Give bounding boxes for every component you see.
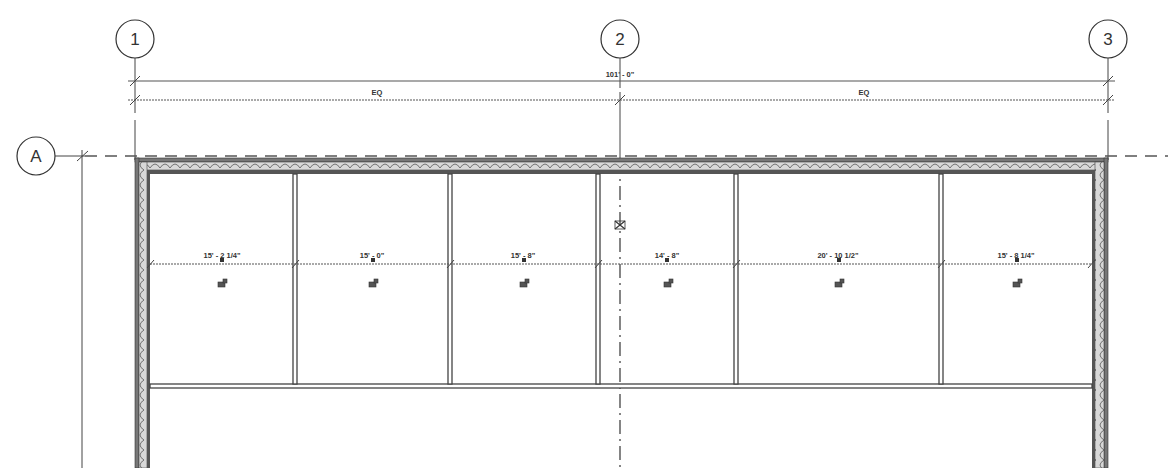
- dimension-grip-icon[interactable]: [837, 258, 841, 262]
- grid-line-3[interactable]: 3: [1089, 20, 1127, 160]
- eq-dimension-text-1: EQ: [372, 88, 383, 97]
- grid-bubble-2[interactable]: 2: [601, 20, 639, 58]
- room-3[interactable]: 15' - 8": [511, 251, 536, 287]
- grid-bubble-3[interactable]: 3: [1089, 20, 1127, 58]
- grid-line-1[interactable]: 1: [116, 20, 154, 160]
- room-partitions[interactable]: [293, 174, 943, 384]
- room-tag-icon[interactable]: [369, 279, 378, 287]
- room-4[interactable]: 14' - 8": [655, 251, 680, 287]
- dimension-grip-icon[interactable]: [665, 258, 669, 262]
- partition-3: [596, 174, 600, 384]
- grid-bubble-1[interactable]: 1: [116, 20, 154, 58]
- partition-4: [734, 174, 738, 384]
- overall-dimension[interactable]: 101' - 0": [128, 70, 1115, 86]
- grid-label-2: 2: [615, 30, 624, 49]
- partition-1: [293, 174, 297, 384]
- room-2[interactable]: 15' - 0": [360, 251, 385, 287]
- room-tag-icon[interactable]: [835, 279, 844, 287]
- grid-line-a[interactable]: A: [17, 137, 1168, 468]
- room-dimension-string[interactable]: [147, 260, 1095, 268]
- overall-dimension-text: 101' - 0": [606, 70, 635, 79]
- eq-dimension-text-2: EQ: [859, 88, 870, 97]
- grid-label-1: 1: [130, 30, 139, 49]
- dimension-grip-icon[interactable]: [1015, 258, 1019, 262]
- room-6[interactable]: 15' - 8 1/4": [997, 251, 1034, 287]
- partition-5: [939, 174, 943, 384]
- grid-label-3: 3: [1103, 30, 1112, 49]
- room-1[interactable]: 15' - 2 1/4": [203, 251, 240, 287]
- eq-dimension-string[interactable]: EQ EQ: [128, 88, 1115, 105]
- corridor-partition[interactable]: [150, 384, 1092, 388]
- floor-plan-drawing: 1 2 3 A: [0, 0, 1168, 468]
- room-tag-icon[interactable]: [520, 279, 529, 287]
- grid-label-a: A: [30, 147, 42, 166]
- room-5[interactable]: 20' - 10 1/2": [817, 251, 859, 287]
- partition-2: [448, 174, 452, 384]
- dimension-grip-icon[interactable]: [220, 258, 224, 262]
- grid-bubble-a[interactable]: A: [17, 137, 55, 175]
- dimension-grip-icon[interactable]: [371, 258, 375, 262]
- room-tag-icon[interactable]: [1013, 279, 1022, 287]
- grid-line-2[interactable]: 2: [601, 20, 639, 468]
- room-tag-icon[interactable]: [664, 279, 673, 287]
- exterior-wall[interactable]: [135, 158, 1108, 468]
- room-tag-icon[interactable]: [218, 279, 227, 287]
- dimension-grip-icon[interactable]: [522, 258, 526, 262]
